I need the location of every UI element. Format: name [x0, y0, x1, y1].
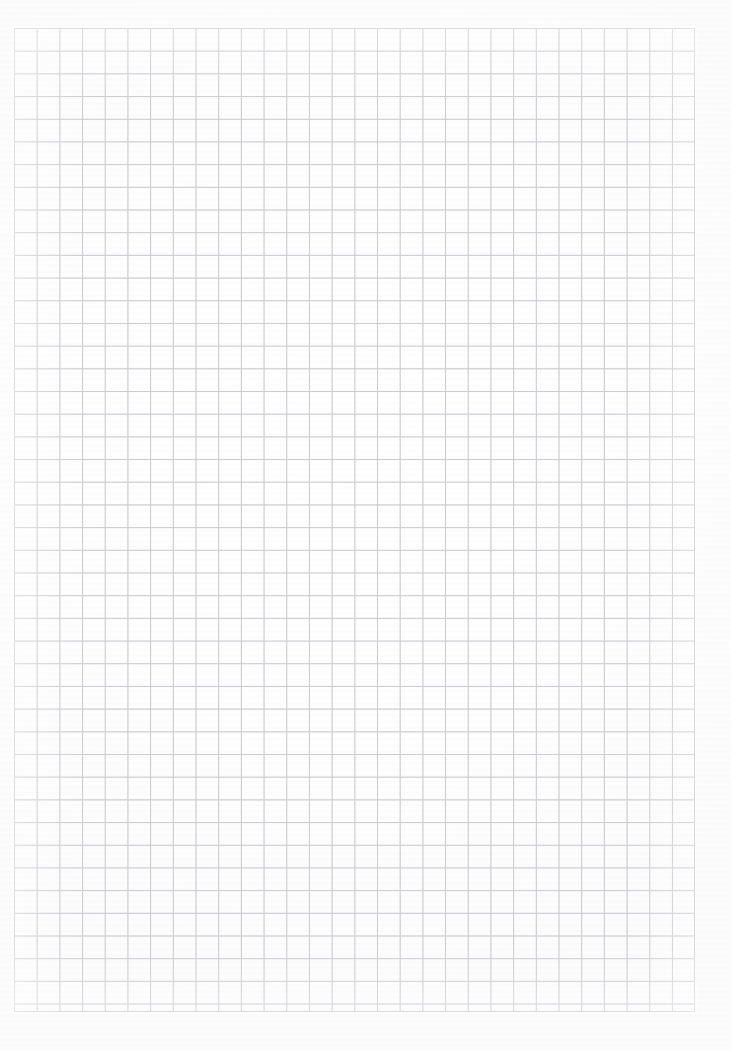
grid-bottom-edge-line [14, 1011, 695, 1012]
grid-area [14, 28, 695, 1012]
grid-right-edge-line [694, 28, 695, 1012]
right-margin [695, 0, 731, 1050]
grid-lines [14, 28, 695, 1012]
graph-paper-page [0, 0, 731, 1050]
bottom-margin [0, 1012, 731, 1050]
left-margin [0, 0, 14, 1050]
top-margin [0, 0, 731, 28]
